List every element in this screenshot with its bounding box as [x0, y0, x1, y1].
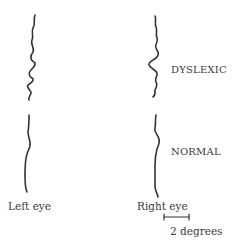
- row-label-normal: NORMAL: [171, 146, 221, 158]
- column-label-right-eye: Right eye: [137, 200, 188, 212]
- trace-normal-left-eye: [25, 115, 30, 192]
- trace-normal-right-eye: [155, 115, 159, 197]
- trace-dyslexic-right-eye: [149, 16, 158, 97]
- column-label-left-eye: Left eye: [8, 200, 51, 212]
- scale-bar: [164, 214, 189, 220]
- trace-dyslexic-left-eye: [27, 15, 35, 100]
- row-label-dyslexic: DYSLEXIC: [171, 64, 227, 76]
- scale-bar-label: 2 degrees: [170, 225, 223, 237]
